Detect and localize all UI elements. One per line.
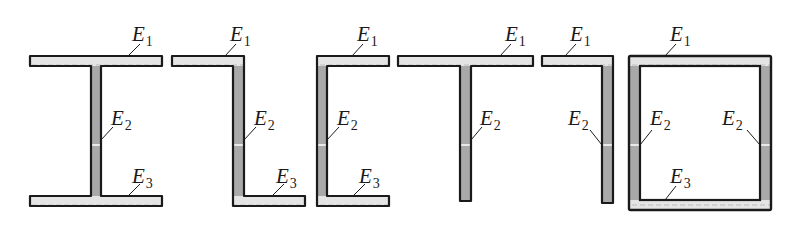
label-subscript: 1 [371, 34, 378, 49]
flange-e3 [233, 196, 305, 206]
label-e2: E2 [480, 108, 501, 133]
label-subscript: 2 [736, 118, 743, 133]
web-e2 [602, 56, 613, 203]
t-section [398, 44, 533, 201]
flange-e1 [542, 56, 613, 66]
label-subscript: 3 [146, 176, 153, 191]
leader-line [590, 130, 602, 145]
label-e2: E2 [254, 108, 275, 133]
label-subscript: 1 [519, 34, 526, 49]
label-base: E [254, 106, 267, 130]
label-e2: E2 [650, 108, 671, 133]
flange-e1 [317, 56, 389, 66]
label-e1: E1 [670, 24, 691, 49]
leader-line [747, 130, 760, 145]
label-base: E [111, 106, 124, 130]
flange-e3 [317, 196, 389, 206]
label-e1: E1 [132, 24, 153, 49]
label-base: E [650, 106, 663, 130]
web-e2 [460, 66, 471, 201]
label-base: E [276, 164, 289, 188]
flange-e1 [398, 56, 533, 66]
label-base: E [722, 106, 735, 130]
label-base: E [359, 164, 372, 188]
label-base: E [337, 106, 350, 130]
label-base: E [132, 22, 145, 46]
label-e2: E2 [568, 108, 589, 133]
label-e1: E1 [570, 24, 591, 49]
label-e2: E2 [722, 108, 743, 133]
label-e3: E3 [276, 166, 297, 191]
web-e2 [91, 66, 101, 196]
label-base: E [568, 106, 581, 130]
flange-e3 [30, 196, 162, 206]
label-e3: E3 [670, 166, 691, 191]
label-subscript: 2 [582, 118, 589, 133]
label-subscript: 2 [494, 118, 501, 133]
label-base: E [357, 22, 370, 46]
label-subscript: 3 [684, 176, 691, 191]
label-e3: E3 [132, 166, 153, 191]
label-base: E [570, 22, 583, 46]
label-subscript: 1 [146, 34, 153, 49]
label-subscript: 2 [268, 118, 275, 133]
label-subscript: 1 [584, 34, 591, 49]
section-outline-inner [640, 66, 760, 200]
label-base: E [230, 22, 243, 46]
label-base: E [480, 106, 493, 130]
label-subscript: 2 [664, 118, 671, 133]
flange-e1 [629, 56, 771, 66]
web-e2 [629, 56, 640, 210]
label-e1: E1 [505, 24, 526, 49]
label-subscript: 2 [351, 118, 358, 133]
label-base: E [670, 22, 683, 46]
flange-e1 [30, 56, 162, 66]
label-e1: E1 [357, 24, 378, 49]
label-base: E [132, 164, 145, 188]
label-e1: E1 [230, 24, 251, 49]
web-e2 [317, 56, 327, 206]
web-e2 [760, 56, 771, 210]
flange-e3 [629, 200, 771, 210]
flange-e1 [172, 56, 244, 66]
label-base: E [670, 164, 683, 188]
label-base: E [505, 22, 518, 46]
label-subscript: 1 [684, 34, 691, 49]
label-subscript: 3 [373, 176, 380, 191]
label-subscript: 2 [125, 118, 132, 133]
label-e2: E2 [337, 108, 358, 133]
label-subscript: 3 [290, 176, 297, 191]
label-e3: E3 [359, 166, 380, 191]
web-e2 [233, 56, 244, 206]
label-e2: E2 [111, 108, 132, 133]
label-subscript: 1 [244, 34, 251, 49]
